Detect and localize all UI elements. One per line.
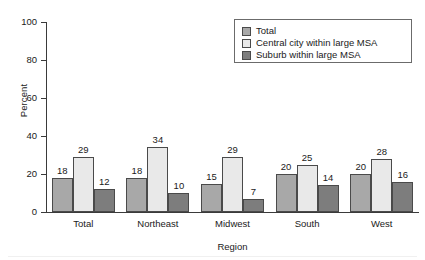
y-axis-tick-label: 20 xyxy=(0,169,37,179)
y-axis-tick-label: 80 xyxy=(0,55,37,65)
x-axis-title: Region xyxy=(46,241,419,252)
legend-item[interactable]: Total xyxy=(242,25,276,37)
bar-value-label: 25 xyxy=(290,153,324,163)
bar[interactable] xyxy=(276,174,297,212)
bar-group: 183410 xyxy=(126,22,189,212)
bar[interactable] xyxy=(201,184,222,213)
legend-swatch-icon xyxy=(242,27,251,36)
x-axis-line xyxy=(46,212,419,213)
bar-value-label: 29 xyxy=(216,145,250,155)
bar[interactable] xyxy=(126,178,147,212)
bar[interactable] xyxy=(222,157,243,212)
y-axis-tick-label: 60 xyxy=(0,93,37,103)
legend-item-label: Total xyxy=(256,26,276,36)
y-axis-tick-label: 100 xyxy=(0,17,37,27)
legend-item[interactable]: Central city within large MSA xyxy=(242,37,377,49)
bar-value-label: 10 xyxy=(162,181,196,191)
y-axis-tick-label: 40 xyxy=(0,131,37,141)
y-axis-tick-label: 0 xyxy=(0,207,37,217)
bar-value-label: 28 xyxy=(365,147,399,157)
bar[interactable] xyxy=(350,174,371,212)
bar[interactable] xyxy=(147,147,168,212)
bar-chart-figure: Percent 020406080100 1829121834101529720… xyxy=(0,0,425,260)
bar-value-label: 16 xyxy=(386,170,420,180)
legend-item-label: Central city within large MSA xyxy=(256,38,377,48)
bar[interactable] xyxy=(94,189,115,212)
bar-value-label: 29 xyxy=(66,145,100,155)
x-axis-category-label: West xyxy=(327,218,425,229)
legend-item[interactable]: Suburb within large MSA xyxy=(242,49,361,61)
bar[interactable] xyxy=(243,199,264,212)
bar[interactable] xyxy=(168,193,189,212)
bar[interactable] xyxy=(297,165,318,213)
bar[interactable] xyxy=(52,178,73,212)
bar-value-label: 14 xyxy=(311,173,345,183)
bar-value-label: 12 xyxy=(87,177,121,187)
bar[interactable] xyxy=(371,159,392,212)
bar[interactable] xyxy=(392,182,413,212)
bar-value-label: 34 xyxy=(141,135,175,145)
bar[interactable] xyxy=(318,185,339,212)
legend-swatch-icon xyxy=(242,39,251,48)
legend-swatch-icon xyxy=(242,51,251,60)
bar-value-label: 7 xyxy=(237,187,271,197)
legend-item-label: Suburb within large MSA xyxy=(256,50,361,60)
chart-legend: TotalCentral city within large MSASuburb… xyxy=(234,19,412,63)
bar-group: 182912 xyxy=(52,22,115,212)
bottom-rule xyxy=(8,256,417,257)
